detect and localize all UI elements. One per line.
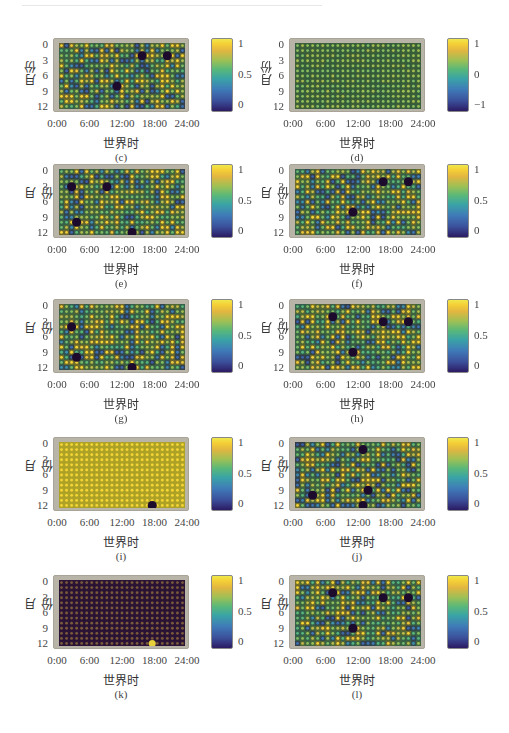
- x-axis-label: 世界时: [103, 671, 139, 689]
- panel-caption: (h): [351, 412, 364, 424]
- y-tick: 3: [270, 592, 284, 603]
- colorbar-tick-mid: 0.5: [238, 195, 252, 206]
- y-tick: 6: [270, 331, 284, 342]
- y-tick: 12: [270, 101, 284, 112]
- panel-caption: (d): [351, 151, 364, 163]
- colorbar-tick-mid: 0.5: [474, 330, 488, 341]
- y-tick: 9: [270, 212, 284, 223]
- x-tick: 12:00: [109, 655, 134, 666]
- y-tick: 12: [270, 638, 284, 649]
- x-tick: 24:00: [410, 655, 435, 666]
- x-tick: 6:00: [316, 379, 336, 390]
- y-tick: 0: [270, 39, 284, 50]
- x-axis-label: 世界时: [103, 134, 139, 152]
- x-axis-label: 世界时: [339, 671, 375, 689]
- colorbar: [211, 164, 233, 238]
- x-tick: 24:00: [174, 517, 199, 528]
- colorbar-tick-mid: 0.5: [238, 606, 252, 617]
- x-tick: 6:00: [80, 379, 100, 390]
- y-tick: 12: [270, 500, 284, 511]
- colorbar-tick-bottom: 0: [474, 636, 480, 647]
- colorbar: [211, 437, 233, 511]
- panel-caption: (c): [115, 151, 127, 163]
- colorbar-tick-top: 1: [238, 164, 244, 175]
- y-tick: 6: [34, 196, 48, 207]
- x-tick: 12:00: [345, 517, 370, 528]
- colorbar-tick-top: 1: [474, 437, 480, 448]
- x-axis-label: 世界时: [339, 134, 375, 152]
- x-tick: 24:00: [410, 118, 435, 129]
- y-tick: 3: [34, 181, 48, 192]
- x-tick: 24:00: [174, 655, 199, 666]
- heatmap-dots: [59, 169, 185, 235]
- x-tick: 18:00: [378, 517, 403, 528]
- colorbar-tick-top: 1: [474, 38, 480, 49]
- x-tick: 6:00: [316, 517, 336, 528]
- x-tick: 6:00: [316, 118, 336, 129]
- x-tick: 12:00: [109, 379, 134, 390]
- colorbar-tick-bottom: 0: [238, 498, 244, 509]
- x-tick: 12:00: [345, 118, 370, 129]
- colorbar-tick-mid: 0.5: [474, 606, 488, 617]
- y-tick: 6: [34, 607, 48, 618]
- heatmap-dots: [295, 580, 421, 646]
- y-tick: 3: [34, 454, 48, 465]
- colorbar: [447, 575, 469, 649]
- y-tick: 3: [270, 181, 284, 192]
- colorbar: [447, 38, 469, 112]
- x-tick: 18:00: [142, 244, 167, 255]
- y-tick: 3: [270, 316, 284, 327]
- heatmap-plot-area: [289, 575, 425, 649]
- x-tick: 18:00: [378, 118, 403, 129]
- y-tick: 6: [270, 70, 284, 81]
- y-tick: 9: [270, 86, 284, 97]
- panel-caption: (l): [352, 688, 362, 700]
- x-axis-label: 世界时: [103, 533, 139, 551]
- x-tick: 24:00: [174, 244, 199, 255]
- panel-caption: (j): [352, 550, 362, 562]
- y-tick: 9: [270, 347, 284, 358]
- x-tick: 6:00: [80, 655, 100, 666]
- x-tick: 24:00: [410, 379, 435, 390]
- colorbar-tick-top: 1: [474, 164, 480, 175]
- x-tick: 18:00: [142, 379, 167, 390]
- colorbar-tick-bottom: 0: [474, 225, 480, 236]
- y-tick: 3: [34, 592, 48, 603]
- heatmap-dots: [295, 169, 421, 235]
- x-tick: 0:00: [47, 517, 67, 528]
- colorbar-tick-mid: 0.5: [474, 468, 488, 479]
- colorbar-tick-bottom: 0: [474, 498, 480, 509]
- x-axis-label: 世界时: [339, 533, 375, 551]
- y-tick: 0: [34, 165, 48, 176]
- y-tick: 9: [34, 485, 48, 496]
- heatmap-plot-area: [53, 299, 189, 373]
- heatmap-plot-area: [53, 575, 189, 649]
- y-tick: 12: [270, 227, 284, 238]
- heatmap-dots: [59, 304, 185, 370]
- colorbar-tick-mid: 0.5: [474, 195, 488, 206]
- colorbar-tick-mid: 0.5: [238, 330, 252, 341]
- x-tick: 0:00: [283, 118, 303, 129]
- x-tick: 12:00: [109, 244, 134, 255]
- x-tick: 12:00: [109, 517, 134, 528]
- y-tick: 3: [270, 55, 284, 66]
- x-tick: 0:00: [283, 379, 303, 390]
- colorbar: [211, 575, 233, 649]
- heatmap-plot-area: [53, 164, 189, 238]
- heatmap-dots: [59, 442, 185, 508]
- colorbar-tick-bottom: 0: [238, 360, 244, 371]
- colorbar-tick-top: 1: [238, 575, 244, 586]
- colorbar-tick-mid: 0.5: [238, 468, 252, 479]
- heatmap-plot-area: [289, 437, 425, 511]
- y-tick: 12: [34, 227, 48, 238]
- x-tick: 6:00: [80, 244, 100, 255]
- x-tick: 24:00: [174, 379, 199, 390]
- y-tick: 0: [270, 300, 284, 311]
- colorbar: [447, 437, 469, 511]
- y-tick: 0: [270, 438, 284, 449]
- y-tick: 12: [34, 500, 48, 511]
- y-tick: 0: [270, 165, 284, 176]
- colorbar-tick-bottom: 0: [238, 225, 244, 236]
- colorbar: [447, 164, 469, 238]
- heatmap-plot-area: [53, 437, 189, 511]
